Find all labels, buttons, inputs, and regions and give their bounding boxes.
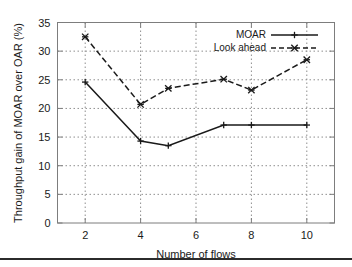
chart-figure: 246810 05101520253035 Number of flows Th… xyxy=(0,0,352,267)
y-tick-label: 20 xyxy=(38,102,50,114)
legend-label-1: MOAR xyxy=(236,29,266,40)
y-tick-label: 10 xyxy=(38,160,50,172)
y-tick-label: 35 xyxy=(38,17,50,29)
x-tick-label: 6 xyxy=(193,229,199,241)
y-tick-label: 0 xyxy=(44,217,50,229)
y-tick-label: 15 xyxy=(38,131,50,143)
x-tick-label: 4 xyxy=(138,229,144,241)
line-chart: 246810 05101520253035 Number of flows Th… xyxy=(0,0,352,267)
page-divider-rule xyxy=(0,258,352,260)
y-tick-label: 30 xyxy=(38,45,50,57)
x-tick-label: 2 xyxy=(82,229,88,241)
y-tick-label: 25 xyxy=(38,74,50,86)
x-tick-label: 8 xyxy=(248,229,254,241)
y-axis-label: Throughput gain of MOAR over OAR (%) xyxy=(12,23,24,223)
chart-background xyxy=(0,0,352,267)
x-tick-label: 10 xyxy=(301,229,313,241)
y-tick-label: 5 xyxy=(44,188,50,200)
legend-label-2: Look ahead xyxy=(214,42,266,53)
